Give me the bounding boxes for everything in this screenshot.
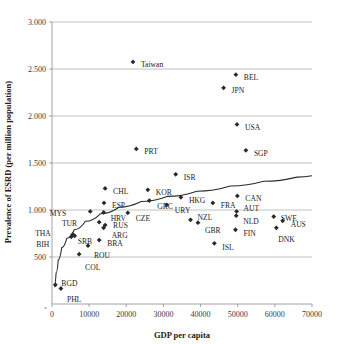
data-point[interactable]: BEL bbox=[233, 72, 258, 82]
diamond-marker[interactable] bbox=[221, 85, 226, 90]
diamond-marker[interactable] bbox=[145, 187, 150, 192]
diamond-marker[interactable] bbox=[173, 172, 178, 177]
data-point[interactable]: SRB bbox=[72, 233, 92, 246]
x-tick-label: 50000 bbox=[228, 310, 248, 319]
x-tick-label: 10000 bbox=[79, 310, 99, 319]
data-point-label: BIH bbox=[36, 240, 50, 249]
diamond-marker[interactable] bbox=[125, 210, 130, 215]
x-axis-title: GDP per capita bbox=[154, 330, 211, 340]
diamond-marker[interactable] bbox=[102, 201, 107, 206]
diamond-marker[interactable] bbox=[212, 241, 217, 246]
data-point-label: ISL bbox=[222, 243, 234, 252]
data-point-label: COL bbox=[85, 263, 101, 272]
x-tick-label: 70000 bbox=[302, 310, 322, 319]
data-point-label: ISR bbox=[184, 173, 197, 182]
data-point[interactable]: AUS bbox=[280, 218, 306, 229]
data-point-label: HKG bbox=[189, 196, 206, 205]
data-point-label: KOR bbox=[156, 188, 173, 197]
data-point-label: MYS bbox=[50, 209, 66, 218]
x-tick-label: 20000 bbox=[116, 310, 136, 319]
data-point[interactable]: AUT bbox=[234, 204, 259, 214]
data-point-label: CHL bbox=[113, 187, 129, 196]
data-point[interactable]: SGP bbox=[243, 148, 267, 158]
x-axis-ticks: 010000200003000040000500006000070000 bbox=[50, 304, 322, 319]
data-point-label: Taiwan bbox=[141, 60, 163, 69]
x-tick-label: 40000 bbox=[191, 310, 211, 319]
data-point-label: RUS bbox=[113, 221, 128, 230]
x-tick-label: 30000 bbox=[153, 310, 173, 319]
data-point-label: PRT bbox=[144, 147, 158, 156]
data-point[interactable]: Taiwan bbox=[131, 60, 164, 70]
data-point[interactable]: BGD bbox=[53, 279, 78, 288]
y-tick-label: 1.000 bbox=[28, 206, 46, 215]
data-point-label: BEL bbox=[244, 73, 259, 82]
y-axis-ticks: 5001.0001.5002.0002.5003.000 bbox=[28, 18, 52, 308]
diamond-marker[interactable] bbox=[235, 122, 240, 127]
data-point[interactable]: PHL bbox=[59, 286, 82, 304]
data-point-label: PHL bbox=[67, 295, 82, 304]
diamond-marker[interactable] bbox=[210, 201, 215, 206]
diamond-marker[interactable] bbox=[53, 282, 58, 287]
data-point[interactable]: CAN bbox=[235, 194, 262, 204]
data-point-label: URY bbox=[175, 206, 191, 215]
data-point-label: AUT bbox=[244, 204, 260, 213]
diamond-marker[interactable] bbox=[234, 213, 239, 218]
data-point-label: CZE bbox=[136, 214, 151, 223]
data-point-label: SGP bbox=[254, 149, 268, 158]
diamond-marker[interactable] bbox=[271, 214, 276, 219]
diamond-marker[interactable] bbox=[77, 252, 82, 257]
data-point[interactable]: ISL bbox=[212, 241, 234, 252]
y-tick-label: 1.500 bbox=[28, 159, 46, 168]
data-point-label: AUS bbox=[291, 220, 306, 229]
data-point-label: GRC bbox=[157, 202, 173, 211]
y-tick-label: 2.000 bbox=[28, 112, 46, 121]
chart-canvas: 010000200003000040000500006000070000 500… bbox=[0, 0, 337, 344]
diamond-marker[interactable] bbox=[274, 225, 279, 230]
data-point[interactable]: NLD bbox=[234, 213, 260, 226]
diamond-marker[interactable] bbox=[103, 186, 108, 191]
y-axis-title: Prevalence of ESRD (per million populati… bbox=[3, 81, 13, 244]
data-point[interactable]: FIN bbox=[233, 227, 256, 238]
data-point[interactable]: GBR bbox=[196, 220, 222, 235]
data-point-label: NLD bbox=[243, 217, 259, 226]
data-point[interactable]: PRT bbox=[134, 147, 158, 157]
data-point[interactable]: BRA bbox=[97, 238, 124, 249]
data-point-label: FIN bbox=[243, 229, 256, 238]
data-point-label: TUR bbox=[62, 219, 78, 228]
data-point[interactable]: GRC bbox=[147, 198, 173, 211]
data-point[interactable]: THA bbox=[35, 229, 75, 238]
data-point-label: USA bbox=[245, 123, 261, 132]
diamond-marker[interactable] bbox=[147, 198, 152, 203]
diamond-marker[interactable] bbox=[233, 227, 238, 232]
y-tick-label: 3.000 bbox=[28, 18, 46, 27]
diamond-marker[interactable] bbox=[131, 60, 136, 65]
diamond-marker[interactable] bbox=[97, 220, 102, 225]
data-point-label: ROU bbox=[94, 251, 111, 260]
diamond-marker[interactable] bbox=[97, 238, 102, 243]
data-point-label: ESP bbox=[112, 201, 125, 210]
y-tick-label: 500 bbox=[34, 253, 46, 262]
data-point[interactable]: HKG bbox=[178, 195, 205, 205]
data-point-label: THA bbox=[35, 229, 51, 238]
data-point-label: JPN bbox=[232, 86, 245, 95]
scatter-chart: 010000200003000040000500006000070000 500… bbox=[0, 0, 337, 344]
gridlines bbox=[52, 22, 312, 257]
diamond-marker[interactable] bbox=[134, 147, 139, 152]
data-point[interactable]: JPN bbox=[221, 85, 245, 95]
data-point[interactable]: CZE bbox=[125, 210, 150, 223]
data-point[interactable]: ISR bbox=[173, 172, 196, 182]
data-point[interactable]: USA bbox=[235, 122, 261, 132]
diamond-marker[interactable] bbox=[233, 72, 238, 77]
data-point[interactable]: FRA bbox=[210, 201, 236, 211]
diamond-marker[interactable] bbox=[188, 217, 193, 222]
data-point-label: NZL bbox=[198, 213, 213, 222]
data-point[interactable]: NZL bbox=[188, 213, 213, 222]
data-point[interactable]: RUS bbox=[103, 221, 128, 230]
x-tick-label: 0 bbox=[50, 310, 54, 319]
data-point-label: BRA bbox=[107, 239, 123, 248]
data-point[interactable]: ESP bbox=[102, 201, 125, 211]
data-point[interactable]: KOR bbox=[145, 187, 172, 197]
data-point[interactable]: CHL bbox=[103, 186, 129, 196]
diamond-marker[interactable] bbox=[235, 194, 240, 199]
diamond-marker[interactable] bbox=[243, 148, 248, 153]
